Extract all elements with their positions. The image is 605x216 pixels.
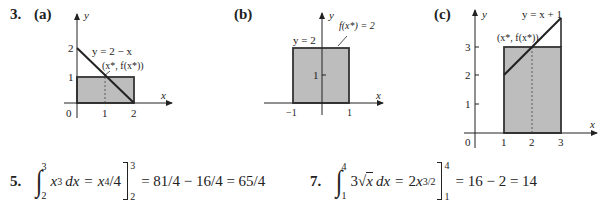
rectangle-area [77, 77, 134, 103]
svg-text:y: y [328, 9, 334, 21]
svg-text:3: 3 [465, 41, 471, 53]
svg-text:y: y [481, 8, 487, 20]
svg-text:1: 1 [501, 136, 507, 148]
svg-text:2: 2 [529, 136, 535, 148]
graph-a: y x y = 2 − x (x*, f(x*)) 2 1 0 1 2 [0, 0, 200, 150]
problem-7-number: 7. [310, 173, 321, 190]
svg-text:1: 1 [465, 98, 471, 110]
svg-text:1: 1 [347, 107, 352, 118]
svg-text:(x*, f(x*)): (x*, f(x*)) [102, 60, 144, 72]
evaluation-bracket [437, 162, 442, 200]
svg-text:(x*, f(x*)): (x*, f(x*)) [497, 32, 539, 44]
problem-5-equation: 5. ∫ 3 2 x3 dx = x4/4 3 2 = 81/4 − 16/4 … [10, 160, 265, 202]
svg-text:2: 2 [68, 42, 74, 54]
problem-7-result: = 16 − 2 = 14 [455, 173, 537, 190]
svg-text:y: y [83, 9, 89, 21]
svg-text:y = 2: y = 2 [293, 34, 316, 46]
sqrt-icon: √ [358, 173, 366, 190]
problem-5-result: = 81/4 − 16/4 = 65/4 [141, 173, 265, 190]
integral-sign: ∫ [336, 166, 343, 196]
svg-text:−1: −1 [286, 107, 297, 118]
svg-text:0: 0 [66, 107, 72, 119]
svg-text:0: 0 [465, 136, 471, 148]
svg-text:x: x [589, 118, 595, 130]
svg-text:y = x + 1: y = x + 1 [522, 8, 562, 20]
svg-text:1: 1 [313, 69, 319, 81]
svg-text:y = 2 − x: y = 2 − x [92, 45, 132, 57]
svg-text:x: x [375, 89, 381, 101]
svg-text:x: x [160, 89, 166, 101]
svg-text:f(x*) = 2: f(x*) = 2 [339, 20, 375, 32]
svg-text:2: 2 [465, 69, 471, 81]
graph-b: y x y = 2 f(x*) = 2 1 −1 1 [200, 0, 400, 150]
graph-c: y x y = x + 1 (x*, f(x*)) 3 2 1 0 1 2 3 [400, 0, 605, 150]
svg-text:1: 1 [102, 107, 108, 119]
problem-5-number: 5. [10, 173, 21, 190]
svg-text:2: 2 [131, 107, 137, 119]
integral-sign: ∫ [36, 166, 43, 196]
rectangle-area [504, 47, 561, 133]
svg-text:1: 1 [68, 71, 74, 83]
evaluation-bracket [123, 162, 128, 200]
problem-7-equation: 7. ∫ 4 1 3√x dx = 2x3/2 4 1 = 16 − 2 = 1… [310, 160, 537, 202]
svg-text:3: 3 [558, 136, 564, 148]
rectangle-area [293, 48, 349, 103]
